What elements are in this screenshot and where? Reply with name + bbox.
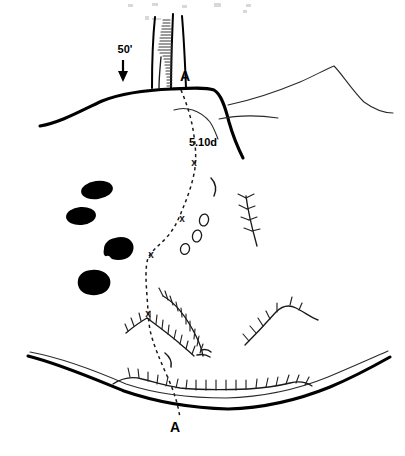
- pocket-3: [179, 243, 190, 256]
- summit-crack-left: [152, 17, 155, 88]
- topo-canvas: A 50' 5.10d x x x x: [0, 0, 405, 456]
- pocket-2: [191, 229, 203, 243]
- distant-ridge: [228, 66, 393, 113]
- summit-crack-inner-left: [159, 57, 161, 88]
- hatched-ledge-3: [125, 313, 147, 333]
- flake-arc-upper: [211, 178, 216, 196]
- anchor-label-top: A: [180, 68, 190, 84]
- pocket-1: [198, 213, 210, 227]
- dark-blob-4: [78, 270, 111, 295]
- scan-artifacts: [128, 3, 251, 20]
- hatched-ledge-2: [147, 311, 195, 356]
- bolt-marker-2: x: [179, 213, 185, 224]
- dark-feature-blobs: [65, 179, 133, 295]
- dark-blob-3: [104, 237, 134, 260]
- hatched-ledge-5: [243, 297, 318, 345]
- dark-blob-2: [65, 206, 96, 227]
- hatched-ledge-4: [238, 194, 260, 246]
- hatched-ledge-1: [159, 288, 203, 356]
- route-bolt-markers: x x x x: [145, 157, 197, 319]
- valley-hatched-ledge: [113, 368, 312, 390]
- dark-blob-1: [80, 179, 114, 201]
- flake-arcs: [165, 178, 216, 367]
- route-grade-label: 5.10d: [189, 136, 217, 148]
- bolt-marker-3: x: [148, 249, 154, 260]
- notch-arc: [174, 109, 218, 140]
- down-arrow-icon: [118, 60, 128, 82]
- valley-floor: [28, 356, 390, 409]
- flake-arc-lower: [165, 353, 171, 367]
- height-callout-label: 50': [118, 43, 133, 55]
- anchor-label-bottom: A: [170, 419, 180, 435]
- bolt-marker-1: x: [191, 157, 197, 168]
- topo-diagram-root: A 50' 5.10d x x x x: [0, 0, 405, 456]
